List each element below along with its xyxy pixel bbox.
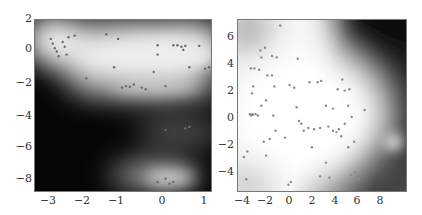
left-heatmap-panel: 2 0 −2 −4 −6 −8 −3 −2 −1 0 1 (0, 0, 215, 215)
data-point (113, 66, 115, 68)
right-xtick: 0 (277, 195, 301, 206)
right-xtick: 4 (323, 195, 347, 206)
data-point (58, 55, 60, 57)
data-point (325, 105, 327, 107)
data-point (172, 181, 174, 183)
data-point (56, 50, 58, 52)
data-point (257, 114, 259, 116)
data-point (258, 69, 260, 71)
data-point (253, 67, 255, 69)
data-point (172, 44, 174, 46)
data-point (252, 85, 254, 87)
right-ytick: 6 (210, 31, 234, 42)
data-point (180, 46, 182, 48)
data-point (117, 38, 119, 40)
data-point (335, 131, 337, 133)
data-point (252, 114, 254, 116)
left-ytick: −2 (8, 77, 32, 88)
right-ytick: 2 (210, 85, 234, 96)
left-xtick: −3 (36, 195, 60, 206)
data-point (332, 130, 334, 132)
data-point (274, 130, 276, 132)
left-xtick: 0 (150, 195, 174, 206)
data-point (276, 56, 278, 58)
right-heatmap (238, 20, 407, 192)
data-point (67, 36, 69, 38)
data-point (52, 42, 54, 44)
data-point (156, 181, 158, 183)
left-ytick: 2 (8, 13, 32, 24)
data-point (62, 41, 64, 43)
data-point (273, 85, 275, 87)
data-point (311, 146, 313, 148)
right-ytick: −4 (210, 166, 234, 177)
data-point (271, 74, 273, 76)
data-point (245, 178, 247, 180)
data-point (260, 105, 262, 107)
data-point (243, 156, 245, 158)
data-point (338, 128, 340, 130)
data-point (50, 38, 52, 40)
right-ytick: 0 (210, 112, 234, 123)
data-point (287, 184, 289, 186)
data-point (303, 130, 305, 132)
data-point (269, 138, 271, 140)
data-point (290, 181, 292, 183)
data-point (153, 71, 155, 73)
data-point (313, 128, 315, 130)
data-point (176, 44, 178, 46)
right-xtick: 6 (345, 195, 369, 206)
data-point (141, 86, 143, 88)
data-point (188, 66, 190, 68)
data-point (85, 77, 87, 79)
data-point (300, 123, 302, 125)
right-plot-area (237, 19, 407, 192)
left-xtick: −1 (104, 195, 128, 206)
data-point (184, 127, 186, 129)
data-point (332, 107, 334, 109)
data-point (164, 85, 166, 87)
data-point (325, 161, 327, 163)
data-point (129, 86, 131, 88)
data-point (297, 58, 299, 60)
data-point (293, 87, 295, 89)
data-point (251, 92, 253, 94)
right-xtick: 8 (368, 195, 392, 206)
left-ytick: −8 (8, 173, 32, 184)
data-point (319, 175, 321, 177)
data-point (105, 33, 107, 35)
data-point (260, 56, 262, 58)
data-point (156, 44, 158, 46)
right-ytick: −2 (210, 139, 234, 150)
left-xtick: 1 (192, 195, 216, 206)
data-point (351, 116, 353, 118)
data-point (279, 24, 281, 26)
data-point (341, 78, 343, 80)
left-ytick: −4 (8, 110, 32, 121)
data-point (320, 80, 322, 82)
data-point (145, 88, 147, 90)
data-point (64, 46, 66, 48)
data-point (272, 114, 274, 116)
data-point (73, 35, 75, 37)
data-point (264, 47, 266, 49)
data-point (347, 146, 349, 148)
data-point (284, 136, 286, 138)
left-ytick: −6 (8, 141, 32, 152)
data-point (307, 127, 309, 129)
data-point (168, 182, 170, 184)
data-point (353, 141, 355, 143)
data-point (164, 129, 166, 131)
data-point (259, 49, 261, 51)
data-point (164, 178, 166, 180)
data-point (319, 127, 321, 129)
data-point (254, 113, 256, 115)
data-point (121, 86, 123, 88)
right-ytick: 4 (210, 58, 234, 69)
data-point (198, 45, 200, 47)
data-point (344, 89, 346, 91)
data-point (125, 85, 127, 87)
data-point (271, 55, 273, 57)
left-ytick: 0 (8, 43, 32, 54)
right-xtick: −4 (230, 195, 254, 206)
